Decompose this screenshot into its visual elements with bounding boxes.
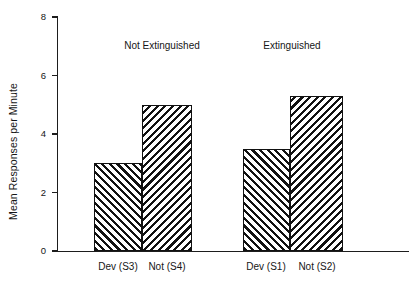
x-tick-label-not-s2: Not (S2) <box>287 262 347 272</box>
bar-not-s4 <box>142 105 192 252</box>
group-heading-not-extinguished: Not Extinguished <box>92 41 232 51</box>
x-tick-label-not-s4: Not (S4) <box>137 262 197 272</box>
bar-dev-s3 <box>94 163 142 251</box>
bar-not-s2 <box>290 96 343 252</box>
bar-chart: Mean Responses per Minute 8 6 4 2 0 Dev … <box>0 0 412 303</box>
group-heading-extinguished: Extinguished <box>232 41 352 51</box>
bar-dev-s1 <box>243 149 290 252</box>
